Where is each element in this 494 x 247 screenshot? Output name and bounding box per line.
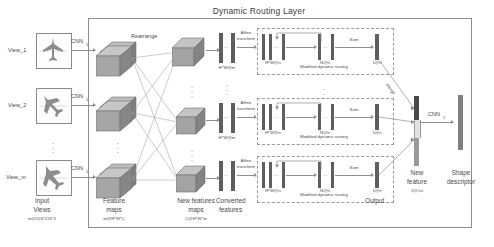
converted-dims-1: H*W@m (219, 66, 236, 71)
new-feature-bar-segment-top (414, 96, 419, 120)
affine-label-1-line2: transform (237, 37, 255, 42)
new-feature-map-cube-c (176, 164, 210, 194)
routing2-sum-label: Sum (350, 108, 359, 113)
routing2-in-bar-c (282, 104, 285, 130)
routing3-out-bar (375, 162, 379, 188)
routing3-input-dims: H*W@n (265, 189, 281, 194)
feature-map-cube-m (96, 160, 144, 200)
input-views-caption-line2: Views (34, 207, 51, 214)
routing1-in-bar-c (282, 34, 285, 60)
routing3-mid-bar-b (331, 162, 334, 188)
shape-descriptor-caption-line1: Shape (452, 170, 470, 177)
new-feature-maps-caption-line1: New features (177, 198, 215, 205)
cnn1-label-1: CNN (71, 39, 83, 45)
new-feature-dims: 1@Cn (411, 189, 423, 194)
figure-title: Dynamic Routing Layer (213, 7, 306, 16)
converted-caption-line1: Converted (216, 198, 246, 205)
converted-bars-ellipsis-1: .. (224, 43, 229, 49)
routing2-in-ellipsis: .. (274, 113, 279, 119)
routing2-box-label: Modified dynamic routing (300, 135, 348, 140)
routing2-mid-ellipsis: .. (323, 113, 328, 119)
new-feature-caption-line2: feature (407, 179, 427, 186)
affine-label-3-line1: Affine (241, 159, 252, 164)
view-label-m: View_m (6, 175, 26, 181)
converted-caption-line2: features (219, 207, 242, 214)
routing3-in-bar-a (262, 162, 265, 188)
routing3-out-dims: 1@n (372, 189, 381, 194)
routing2-mid-bar-b (331, 104, 334, 130)
routing2-out-bar (375, 104, 379, 130)
cnn2-sub: 2 (443, 116, 445, 120)
new-feature-map-cube-1 (172, 36, 210, 68)
view-label-2: View_2 (8, 103, 26, 109)
converted-features-ellipsis: ... (226, 82, 228, 96)
converted-feature-bar-2a (219, 103, 223, 133)
converted-feature-bar-1b (231, 33, 235, 63)
shape-descriptor-bar (458, 95, 463, 150)
routing1-in-bar-b (269, 34, 272, 60)
view-thumbnail-1[interactable] (36, 33, 72, 69)
cnn1-sub-1: 1 (86, 43, 88, 47)
new-feature-maps-ellipsis-top: ... (191, 84, 193, 98)
cnn1-label-2: CNN (71, 94, 83, 100)
cnn2-label: CNN (428, 112, 440, 118)
airplane-side-thumbnail (37, 161, 69, 193)
affine-label-2-line1: Affine (241, 101, 252, 106)
cnn1-label-m: CNN (71, 166, 83, 172)
converted-feature-bar-3a (219, 161, 223, 191)
routing2-mid-bar (318, 104, 321, 130)
new-feature-map-cube-2 (176, 106, 210, 136)
views-ellipsis: ... (52, 140, 54, 154)
rearrange-label: Rearrange (131, 34, 157, 40)
routing1-mid-ellipsis: .. (323, 43, 328, 49)
routing1-out-bar (375, 34, 379, 60)
feature-map-cube-1 (96, 38, 144, 78)
routing3-mid-ellipsis: .. (323, 171, 328, 177)
converted-bars-ellipsis-2: .. (224, 113, 229, 119)
routing3-sum-label: Sum (350, 166, 359, 171)
routing1-out-dims: 1@n (372, 61, 381, 66)
new-feature-bar-segment-bottom (414, 138, 419, 166)
cnn1-sub-m: 1 (86, 170, 88, 174)
feature-maps-caption-line2: maps (106, 207, 122, 214)
routing2-in-bar-b (269, 104, 272, 130)
output-caption: Output (365, 198, 384, 205)
airplane-angled-thumbnail (37, 89, 69, 121)
input-views-dims: m@224*224*3 (28, 217, 56, 222)
routing3-in-ellipsis: .. (274, 171, 279, 177)
diagram-canvas: Dynamic Routing Layer View_1 View_2 ... … (0, 0, 494, 247)
view-thumbnail-m[interactable] (36, 160, 72, 196)
converted-feature-bar-1a (219, 33, 223, 63)
routing1-in-bar-a (262, 34, 265, 60)
new-feature-maps-caption-line2: maps (188, 207, 204, 214)
converted-dims-2: H*W@m (219, 136, 236, 141)
feature-map-cube-2 (96, 93, 144, 133)
routing1-mid-bar-b (331, 34, 334, 60)
new-feature-maps-dims: C@H*W*m (185, 217, 207, 222)
affine-label-1-line1: Affine (241, 31, 252, 36)
routing3-in-bar-c (282, 162, 285, 188)
routing1-box-label: Modified dynamic routing (300, 65, 348, 70)
converted-feature-bar-2b (231, 103, 235, 133)
routing2-out-dims: 1@n (372, 131, 381, 136)
input-views-caption-line1: Input (35, 198, 49, 205)
view-label-1: View_1 (8, 48, 26, 54)
routing2-in-bar-a (262, 104, 265, 130)
routing1-input-dims: H*W@n (265, 61, 281, 66)
new-feature-maps-ellipsis-bottom: ... (191, 148, 193, 162)
affine-label-3-line2: transform (237, 165, 255, 170)
shape-descriptor-caption-line2: descriptor (447, 179, 475, 186)
view-thumbnail-2[interactable] (36, 88, 72, 124)
new-feature-caption-line1: New (411, 170, 424, 177)
routing3-box-label: Modified dynamic routing (300, 193, 348, 198)
feature-maps-caption-line1: Feature (103, 198, 125, 205)
feature-maps-ellipsis: ... (117, 140, 119, 154)
converted-feature-bar-3b (231, 161, 235, 191)
routing1-in-ellipsis: .. (274, 43, 279, 49)
routing3-in-bar-b (269, 162, 272, 188)
routing1-mid-bar (318, 34, 321, 60)
routing2-input-dims: H*W@n (265, 131, 281, 136)
feature-maps-dims: m@H*W*C (103, 217, 125, 222)
routing3-mid-bar (318, 162, 321, 188)
converted-bars-ellipsis-3: .. (224, 171, 229, 177)
